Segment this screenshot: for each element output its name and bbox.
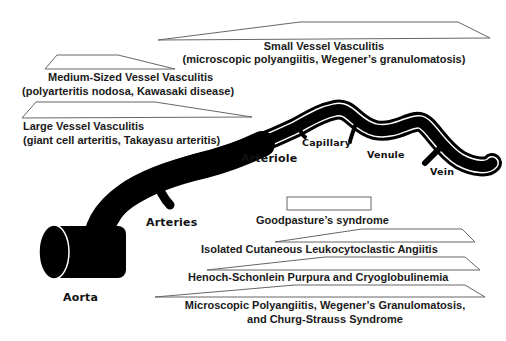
medium-vessel-wedge bbox=[45, 55, 175, 69]
goodpasture-label: Goodpasture’s syndrome bbox=[256, 214, 389, 227]
microscopic-wedge bbox=[155, 285, 485, 297]
small-vessel-wedge bbox=[158, 22, 490, 40]
small-vessel-title: Small Vessel Vasculitis bbox=[162, 40, 486, 53]
vessel-label-capillary: Capillary bbox=[302, 137, 351, 148]
goodpasture-box bbox=[287, 197, 371, 210]
range-wedges-top bbox=[22, 22, 490, 118]
henoch-label: Henoch-Schonlein Purpura and Cryoglobuli… bbox=[188, 271, 448, 284]
henoch-wedge bbox=[207, 257, 480, 270]
microscopic-label-line2: and Churg-Strauss Syndrome bbox=[170, 313, 480, 326]
vessel-label-arteriole: Arteriole bbox=[241, 152, 297, 165]
isolated-wedge bbox=[275, 229, 475, 242]
vessel-label-arteries: Arteries bbox=[146, 216, 197, 229]
medium-vessel-subtitle: (polyarteritis nodosa, Kawasaki disease) bbox=[22, 85, 234, 98]
large-vessel-wedge bbox=[22, 102, 252, 118]
vein-branch bbox=[425, 148, 440, 163]
large-vessel-title: Large Vessel Vasculitis bbox=[23, 120, 144, 133]
vessel-label-vein: Vein bbox=[430, 166, 454, 177]
small-vessel-subtitle: (microscopic polyangiitis, Wegener’s gra… bbox=[162, 53, 486, 66]
vessel-tree bbox=[95, 109, 492, 255]
microscopic-label-line1: Microscopic Polyangiitis, Wegener’s Gran… bbox=[170, 299, 480, 312]
medium-vessel-title: Medium-Sized Vessel Vasculitis bbox=[48, 71, 213, 84]
isolated-angiitis-label: Isolated Cutaneous Leukocytoclastic Angi… bbox=[201, 243, 438, 256]
aorta-cylinder bbox=[39, 225, 126, 279]
vessel-label-aorta: Aorta bbox=[63, 291, 98, 304]
vessel-label-venule: Venule bbox=[367, 149, 405, 160]
large-vessel-subtitle: (giant cell arteritis, Takayasu arteriti… bbox=[23, 134, 220, 147]
